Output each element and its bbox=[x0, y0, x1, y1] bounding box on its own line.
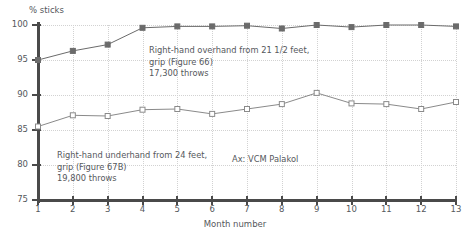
data-point-marker bbox=[349, 101, 354, 106]
data-point-marker bbox=[70, 113, 75, 118]
data-point-marker bbox=[175, 24, 180, 29]
data-point-marker bbox=[175, 107, 180, 112]
data-point-marker bbox=[419, 107, 424, 112]
annotation-line: grip (Figure 67B) bbox=[57, 162, 207, 174]
annotation-line: 19,800 throws bbox=[57, 173, 207, 185]
data-point-marker bbox=[384, 102, 389, 107]
series-layer bbox=[0, 0, 470, 232]
data-point-marker bbox=[279, 26, 284, 31]
annotation-line: Right-hand underhand from 24 feet, bbox=[57, 150, 207, 162]
annotation-line: Right-hand overhand from 21 1/2 feet, bbox=[149, 45, 309, 57]
data-point-marker bbox=[70, 48, 75, 53]
annotation-underhand: Right-hand underhand from 24 feet,grip (… bbox=[57, 150, 207, 185]
annotation-axis-note: Ax: VCM Palakol bbox=[232, 154, 298, 166]
data-point-marker bbox=[245, 107, 250, 112]
data-point-marker bbox=[314, 90, 319, 95]
data-point-marker bbox=[36, 58, 41, 63]
annotation-line: 17,300 throws bbox=[149, 68, 309, 80]
annotation-overhand: Right-hand overhand from 21 1/2 feet,gri… bbox=[149, 45, 309, 80]
data-point-marker bbox=[36, 124, 41, 129]
data-point-marker bbox=[384, 23, 389, 28]
data-point-marker bbox=[454, 24, 459, 29]
data-point-marker bbox=[454, 100, 459, 105]
data-point-marker bbox=[140, 107, 145, 112]
x-axis-title: Month number bbox=[0, 219, 470, 229]
data-point-marker bbox=[105, 42, 110, 47]
data-point-marker bbox=[314, 23, 319, 28]
data-point-marker bbox=[210, 24, 215, 29]
data-point-marker bbox=[279, 102, 284, 107]
chart-container: % sticks 7580859095100 12345678910111213… bbox=[0, 0, 470, 232]
data-point-marker bbox=[105, 114, 110, 119]
data-point-marker bbox=[419, 23, 424, 28]
annotation-line: Ax: VCM Palakol bbox=[232, 154, 298, 166]
data-point-marker bbox=[349, 25, 354, 30]
data-point-marker bbox=[245, 23, 250, 28]
data-point-marker bbox=[140, 25, 145, 30]
series-2 bbox=[36, 90, 459, 129]
annotation-line: grip (Figure 66) bbox=[149, 57, 309, 69]
data-point-marker bbox=[210, 111, 215, 116]
